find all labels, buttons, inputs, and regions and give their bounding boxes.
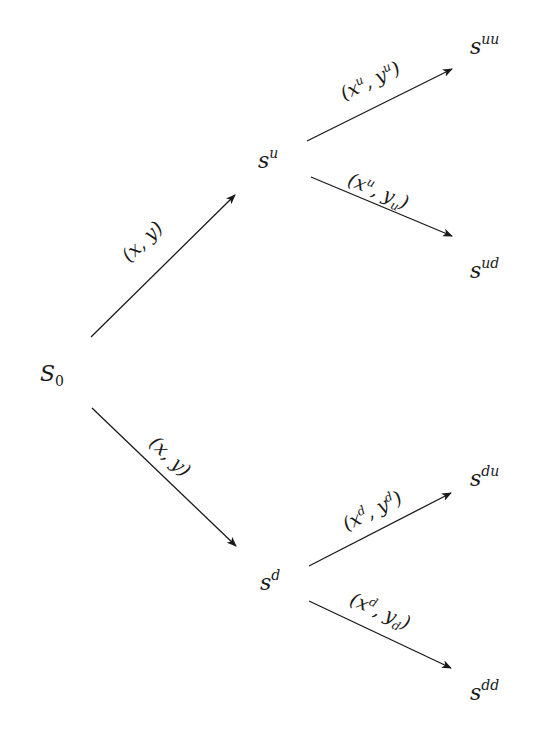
node-u-base: s bbox=[258, 148, 269, 173]
node-ud-sup: ud bbox=[481, 255, 499, 271]
node-uu: suu bbox=[470, 34, 499, 58]
node-d-sup: d bbox=[271, 567, 280, 583]
node-d-base: s bbox=[260, 570, 271, 595]
edge-arrow-root-to-u bbox=[91, 195, 235, 337]
node-du-sup: du bbox=[481, 463, 499, 479]
node-dd-base: s bbox=[470, 680, 481, 705]
tree-diagram bbox=[0, 0, 538, 738]
node-u: su bbox=[258, 148, 278, 172]
node-du: sdu bbox=[470, 466, 499, 490]
node-ud-base: s bbox=[470, 258, 481, 283]
node-root-sub: 0 bbox=[55, 373, 64, 389]
node-d: sd bbox=[260, 570, 280, 594]
node-dd: sdd bbox=[470, 680, 499, 704]
node-root: S0 bbox=[40, 363, 64, 388]
node-dd-sup: dd bbox=[481, 677, 499, 693]
node-uu-base: s bbox=[470, 34, 481, 59]
edge-arrow-root-to-d bbox=[92, 408, 236, 546]
node-root-base: S bbox=[40, 361, 55, 386]
node-du-base: s bbox=[470, 466, 481, 491]
node-ud: sud bbox=[470, 258, 499, 282]
node-uu-sup: uu bbox=[481, 31, 499, 47]
node-u-sup: u bbox=[269, 145, 278, 161]
